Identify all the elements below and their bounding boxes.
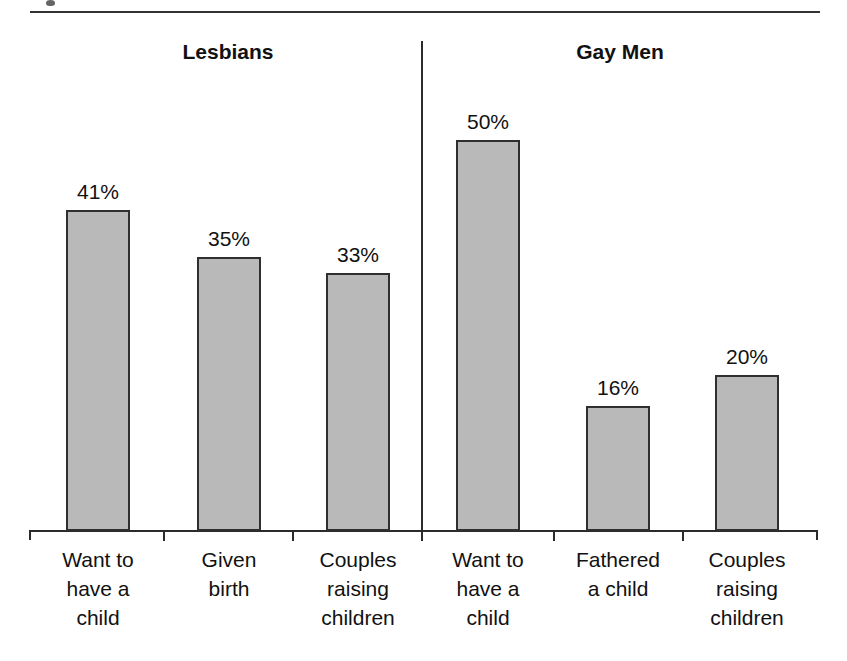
x-axis-label-lesbians-want-child: Want tohave achild (23, 545, 173, 632)
x-axis-label-line: child (23, 603, 173, 632)
bar-value-gaymen-want-child: 50% (428, 110, 548, 134)
x-axis-label-lesbians-given-birth: Givenbirth (154, 545, 304, 603)
bar-lesbians-couples-raising (326, 273, 390, 531)
x-axis-tick-3 (421, 532, 423, 541)
x-axis-label-line: birth (154, 574, 304, 603)
x-axis-label-line: Couples (283, 545, 433, 574)
x-axis-label-line: Fathered (543, 545, 693, 574)
bar-gaymen-couples-raising (715, 375, 779, 531)
bar-value-lesbians-given-birth: 35% (169, 227, 289, 251)
x-axis-label-line: Given (154, 545, 304, 574)
x-axis-tick-5 (682, 532, 684, 541)
x-axis-baseline (29, 530, 818, 532)
x-axis-label-gaymen-fathered-child: Fathereda child (543, 545, 693, 603)
x-axis-tick-4 (553, 532, 555, 541)
x-axis-label-line: Want to (23, 545, 173, 574)
x-axis-label-lesbians-couples-raising: Couplesraisingchildren (283, 545, 433, 632)
x-axis-label-line: children (672, 603, 822, 632)
x-axis-left-endcap (29, 530, 31, 540)
bar-gaymen-want-child (456, 140, 520, 531)
x-axis-label-line: raising (672, 574, 822, 603)
x-axis-label-line: Couples (672, 545, 822, 574)
x-axis-label-line: have a (413, 574, 563, 603)
x-axis-tick-2 (292, 532, 294, 541)
bar-value-lesbians-want-child: 41% (38, 180, 158, 204)
plot-area: 41% 35% 33% 50% 16% 20% Want tohave achi… (0, 0, 847, 661)
bar-gaymen-fathered-child (586, 406, 650, 531)
bar-value-gaymen-fathered-child: 16% (558, 376, 678, 400)
bar-lesbians-given-birth (197, 257, 261, 531)
x-axis-label-line: child (413, 603, 563, 632)
x-axis-label-line: children (283, 603, 433, 632)
bar-value-lesbians-couples-raising: 33% (298, 243, 418, 267)
x-axis-label-gaymen-couples-raising: Couplesraisingchildren (672, 545, 822, 632)
x-axis-label-line: Want to (413, 545, 563, 574)
bar-value-gaymen-couples-raising: 20% (687, 345, 807, 369)
x-axis-label-line: have a (23, 574, 173, 603)
bar-chart-figure: Lesbians Gay Men 41% 35% 33% 50% 16% 20%… (0, 0, 847, 661)
x-axis-label-line: a child (543, 574, 693, 603)
x-axis-right-endcap (816, 530, 818, 540)
x-axis-label-gaymen-want-child: Want tohave achild (413, 545, 563, 632)
bar-lesbians-want-child (66, 210, 130, 531)
x-axis-label-line: raising (283, 574, 433, 603)
x-axis-tick-1 (163, 532, 165, 541)
